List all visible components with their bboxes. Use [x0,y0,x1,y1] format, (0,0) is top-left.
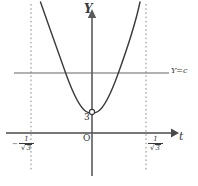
right-root-fraction: 1 √3 [140,136,170,153]
right-root-radicand: 3 [155,144,161,152]
right-root-label: 1 √3 [140,136,170,153]
left-root-stack: 1 √3 [19,136,34,153]
parabola-curve [41,2,141,113]
graph-figure: Y t O 3 Y=c − 1 √3 1 √3 [0,0,198,186]
t-axis-label: t [179,131,183,142]
y-axis-label: Y [84,3,93,15]
vertex-value-label: 3 [84,113,90,122]
left-root-radicand: 3 [25,144,31,152]
right-root-numerator: 1 [148,136,163,144]
right-root-stack: 1 √3 [148,136,163,153]
sqrt-icon: √3 [150,144,161,152]
right-root-denominator: √3 [148,144,163,152]
sqrt-icon: √3 [21,144,32,152]
origin-label: O [83,134,90,143]
left-root-fraction: − 1 √3 [8,136,38,153]
t-axis-arrowhead [171,129,179,138]
left-root-label: − 1 √3 [8,136,38,153]
plot-canvas [0,0,198,186]
vertex-open-point [89,109,94,114]
left-root-numerator: 1 [19,136,34,144]
left-root-sign: − [12,141,18,148]
level-line-label: Y=c [171,67,187,75]
left-root-denominator: √3 [19,144,34,152]
